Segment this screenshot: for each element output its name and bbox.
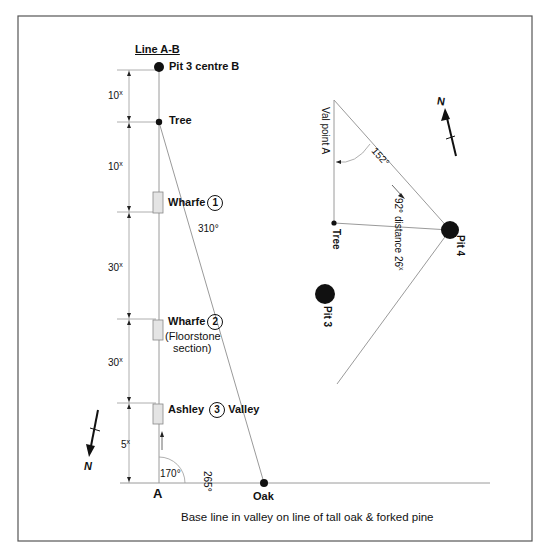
wharfe2-number: 2 bbox=[207, 314, 223, 330]
distance-unit: x bbox=[398, 267, 405, 271]
dim-unit: x bbox=[119, 261, 123, 268]
oak-marker bbox=[260, 479, 268, 487]
ashley3-right-text: Valley bbox=[228, 403, 259, 415]
dim-value: 10 bbox=[108, 161, 119, 172]
wharfe2-feature bbox=[153, 320, 163, 340]
wharfe1-label: Wharfe1 bbox=[168, 195, 223, 211]
dimension-label-3: 30x bbox=[108, 263, 123, 273]
diagram-frame bbox=[18, 16, 532, 541]
point-a-label: A bbox=[153, 487, 162, 500]
wharfe2-label: Wharfe2 bbox=[168, 314, 223, 330]
north-arrow-top-right bbox=[441, 108, 456, 156]
tree-label: Tree bbox=[169, 115, 192, 126]
angle-310-label: 310° bbox=[198, 224, 219, 234]
dimension-label-4: 30x bbox=[108, 358, 123, 368]
dim-unit: x bbox=[119, 160, 123, 167]
north-label-bottom-left: N bbox=[84, 461, 92, 472]
pit3-marker bbox=[315, 284, 335, 304]
pit3-centre-b-marker bbox=[154, 62, 164, 72]
dimension-label-2: 10x bbox=[108, 162, 123, 172]
survey-tree-marker bbox=[331, 220, 336, 225]
ashley3-number: 3 bbox=[209, 402, 225, 418]
direction-arrowhead bbox=[160, 431, 164, 437]
ashley3-left-text: Ashley bbox=[168, 403, 204, 415]
dim-unit: x bbox=[119, 356, 123, 363]
wharfe1-feature bbox=[153, 192, 163, 213]
diagram-caption: Base line in valley on line of tall oak … bbox=[181, 512, 434, 524]
dim-value: 10 bbox=[108, 90, 119, 101]
bearing-distance-label: 92° distance 26x bbox=[393, 198, 403, 271]
diagram-title: Line A-B bbox=[135, 44, 180, 55]
pit4-label: Pit 4 bbox=[455, 235, 465, 256]
wharfe2-note-line2: section) bbox=[173, 343, 212, 354]
north-arrow-bottom-left bbox=[86, 410, 100, 457]
dim-value: 30 bbox=[108, 357, 119, 368]
pit3-label: Pit 3 bbox=[322, 306, 332, 327]
tree-pit4-line bbox=[334, 223, 450, 230]
dim-unit: x bbox=[127, 438, 131, 445]
angle-170-label: 170° bbox=[160, 469, 181, 479]
wharfe1-number: 1 bbox=[207, 195, 223, 211]
dimension-ticks bbox=[117, 70, 156, 403]
oak-label: Oak bbox=[253, 491, 274, 502]
pit3-centre-b-label: Pit 3 centre B bbox=[169, 61, 239, 72]
ashley3-label: Ashley 3 Valley bbox=[168, 402, 259, 418]
ashley3-feature bbox=[153, 404, 163, 424]
dim-value: 30 bbox=[108, 262, 119, 273]
dimension-label-5: 5x bbox=[121, 440, 130, 450]
angle-arc-152 bbox=[336, 144, 370, 162]
wharfe1-text: Wharfe bbox=[168, 196, 205, 208]
dim-value: 5 bbox=[121, 439, 127, 450]
angle-265-label: 265° bbox=[202, 471, 212, 492]
dim-unit: x bbox=[119, 89, 123, 96]
val-point-a-label: Val point A bbox=[320, 107, 330, 154]
bearing-152-line bbox=[334, 100, 450, 230]
survey-diagram-canvas bbox=[0, 0, 543, 554]
survey-tree-label: Tree bbox=[331, 229, 341, 250]
bearing-text: 92° distance 26 bbox=[393, 198, 404, 267]
wharfe2-note-line1: (Floorstone bbox=[165, 331, 221, 342]
tree-marker bbox=[156, 119, 162, 125]
wharfe2-text: Wharfe bbox=[168, 315, 205, 327]
dimension-label-1: 10x bbox=[108, 91, 123, 101]
tree-oak-line bbox=[159, 122, 264, 483]
arc-arrowhead bbox=[336, 160, 341, 164]
